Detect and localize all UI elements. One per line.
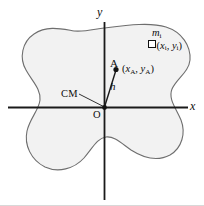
y-axis-label: y xyxy=(97,6,102,18)
mass-element-label: mi xyxy=(152,28,162,39)
physics-figure-rigid-body: y x CM O A h (xA, yA) mi (xi, yi) xyxy=(0,0,204,206)
paren-close: ) xyxy=(179,40,183,51)
figure-canvas xyxy=(0,0,204,206)
mass-element-coordinates-label: (xi, yi) xyxy=(148,40,182,51)
origin-marker xyxy=(102,105,107,110)
point-a-label: A xyxy=(110,58,118,69)
center-of-mass-label: CM xyxy=(61,89,78,100)
paren-close: ) xyxy=(150,63,154,74)
point-a-coordinates-label: (xA, yA) xyxy=(122,64,154,75)
x-axis-label: x xyxy=(190,100,195,112)
origin-label: O xyxy=(93,110,101,121)
distance-h-label: h xyxy=(110,81,116,92)
m-variable: m xyxy=(152,27,160,38)
open-square-marker-icon xyxy=(148,40,156,48)
